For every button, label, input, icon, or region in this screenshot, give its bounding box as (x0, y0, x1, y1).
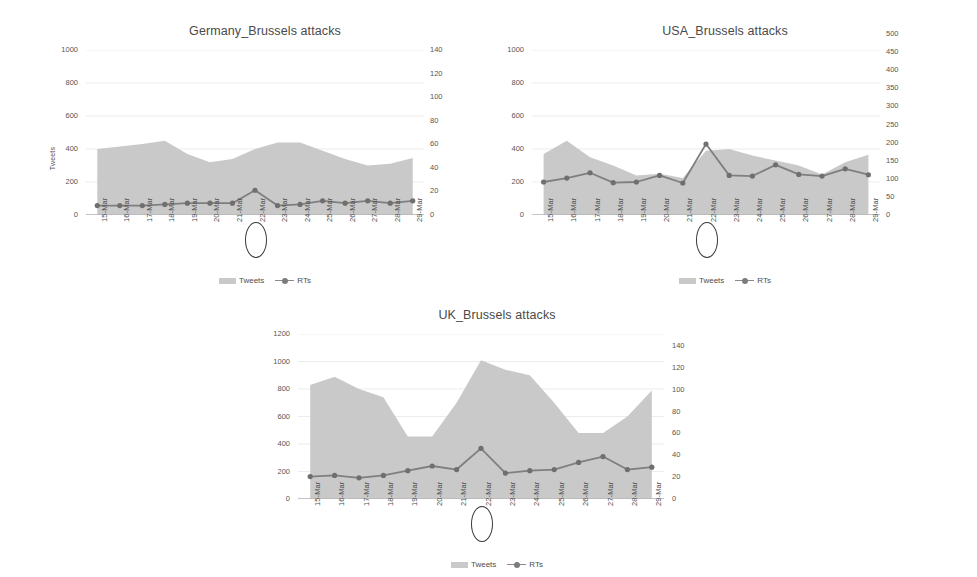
x-axis-tick-label: 23-Mar (281, 198, 289, 222)
data-point-marker (297, 202, 302, 207)
x-axis-tick-label: 22-Mar (710, 198, 718, 222)
x-axis-tick-label: 24-Mar (756, 198, 764, 222)
axis-tick-right: 120 (672, 364, 685, 372)
axis-tick-right: 40 (672, 452, 680, 460)
y-axis-left-ticks-uk: 020040060080010001200 (256, 334, 290, 499)
axis-tick-right: 100 (672, 386, 685, 394)
axis-tick-left: 800 (277, 385, 290, 393)
axis-tick-left: 400 (65, 145, 78, 153)
data-point-marker (478, 446, 483, 451)
x-axis-tick-label: 25-Mar (779, 198, 787, 222)
x-axis-tick-label: 27-Mar (607, 482, 615, 506)
data-point-marker (252, 188, 257, 193)
legend-label-tweets: Tweets (239, 276, 264, 285)
x-axis-tick-label: 27-Mar (371, 198, 379, 222)
data-point-marker (843, 166, 848, 171)
area-swatch-icon (219, 278, 236, 284)
axis-tick-right: 60 (672, 430, 680, 438)
axis-tick-right: 350 (886, 85, 899, 93)
legend-germany: Tweets RTs (40, 276, 490, 285)
y-axis-left-ticks-usa: 02004006008001000 (490, 50, 524, 215)
x-axis-tick-label: 26-Mar (582, 482, 590, 506)
axis-tick-right: 200 (886, 139, 899, 147)
chart-title-uk: UK_Brussels attacks (252, 308, 742, 322)
x-axis-tick-label: 18-Mar (617, 198, 625, 222)
x-axis-tick-label: 15-Mar (101, 198, 109, 222)
legend-label-tweets: Tweets (699, 276, 724, 285)
legend-item-rts: RTs (275, 276, 311, 285)
axis-tick-right: 80 (430, 117, 438, 125)
x-axis-tick-label: 19-Mar (191, 198, 199, 222)
x-axis-tick-label: 21-Mar (686, 198, 694, 222)
legend-label-rts: RTs (757, 276, 771, 285)
axis-tick-right: 500 (886, 30, 899, 38)
legend-item-tweets: Tweets (679, 276, 724, 285)
x-axis-tick-label: 19-Mar (640, 198, 648, 222)
data-point-marker (356, 475, 361, 480)
x-axis-tick-label: 18-Mar (387, 482, 395, 506)
legend-item-rts: RTs (507, 560, 543, 569)
y-axis-right-ticks-usa: 050100150200250300350400450500 (886, 34, 920, 215)
axis-tick-right: 0 (430, 211, 434, 219)
x-axis-tick-label: 16-Mar (570, 198, 578, 222)
data-point-marker (503, 470, 508, 475)
legend-label-tweets: Tweets (471, 560, 496, 569)
data-point-marker (680, 180, 685, 185)
axis-tick-left: 1000 (61, 46, 78, 54)
axis-tick-right: 20 (672, 473, 680, 481)
line-marker-swatch-icon (735, 277, 754, 284)
line-marker-swatch-icon (507, 561, 526, 568)
chart-panel-usa: USA_Brussels attacks 02004006008001000 0… (490, 24, 960, 314)
data-point-marker (634, 179, 639, 184)
axis-tick-right: 0 (672, 495, 676, 503)
x-axis-tick-label: 28-Mar (631, 482, 639, 506)
x-axis-tick-label: 26-Mar (802, 198, 810, 222)
x-axis-tick-label: 15-Mar (547, 198, 555, 222)
data-point-marker (454, 467, 459, 472)
data-point-marker (576, 460, 581, 465)
x-axis-tick-label: 23-Mar (733, 198, 741, 222)
legend-label-rts: RTs (297, 276, 311, 285)
axis-tick-right: 100 (886, 175, 899, 183)
x-axis-tick-label: 22-Mar (485, 482, 493, 506)
data-point-marker (657, 173, 662, 178)
data-point-marker (703, 141, 708, 146)
x-axis-tick-label: 16-Mar (338, 482, 346, 506)
axis-tick-left: 600 (65, 112, 78, 120)
axis-tick-right: 50 (886, 193, 894, 201)
chart-panel-uk: UK_Brussels attacks 02004006008001000120… (252, 308, 742, 577)
x-axis-tick-label: 20-Mar (663, 198, 671, 222)
plot-wrap-uk: 020040060080010001200 020406080100120140… (252, 334, 742, 577)
data-point-marker (611, 180, 616, 185)
axis-tick-left: 1000 (273, 358, 290, 366)
axis-tick-left: 0 (520, 211, 524, 219)
data-point-marker (750, 173, 755, 178)
axis-tick-left: 800 (511, 79, 524, 87)
axis-tick-left: 0 (286, 495, 290, 503)
axis-tick-left: 0 (74, 211, 78, 219)
plot-area-usa (532, 50, 880, 215)
legend-label-rts: RTs (529, 560, 543, 569)
y-axis-right-ticks-germany: 020406080100120140 (430, 50, 464, 215)
axis-tick-left: 200 (511, 178, 524, 186)
data-point-marker (866, 172, 871, 177)
x-axis-tick-label: 25-Mar (558, 482, 566, 506)
data-point-marker (405, 468, 410, 473)
axis-tick-left: 400 (511, 145, 524, 153)
x-axis-tick-label: 27-Mar (826, 198, 834, 222)
axis-tick-right: 250 (886, 121, 899, 129)
axis-tick-right: 40 (430, 164, 438, 172)
legend-item-tweets: Tweets (451, 560, 496, 569)
data-point-marker (600, 454, 605, 459)
data-point-marker (773, 162, 778, 167)
x-axis-tick-label: 29-Mar (872, 198, 880, 222)
legend-usa: Tweets RTs (490, 276, 960, 285)
x-axis-tick-label: 29-Mar (416, 198, 424, 222)
data-point-marker (343, 201, 348, 206)
axis-tick-left: 1000 (507, 46, 524, 54)
x-axis-tick-label: 20-Mar (213, 198, 221, 222)
data-point-marker (381, 473, 386, 478)
axis-tick-left: 200 (65, 178, 78, 186)
x-axis-tick-label: 25-Mar (326, 198, 334, 222)
x-axis-tick-label: 24-Mar (304, 198, 312, 222)
